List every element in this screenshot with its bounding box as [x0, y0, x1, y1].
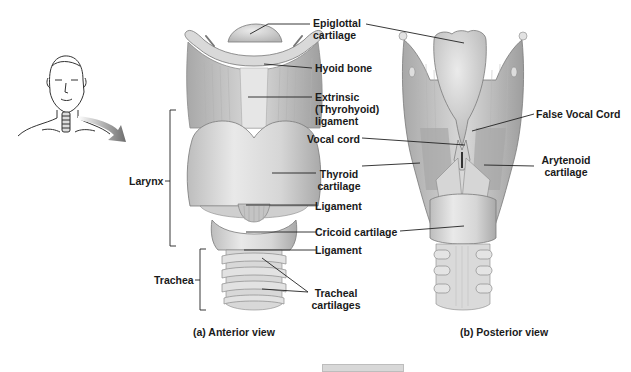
gray-bar [322, 364, 404, 372]
caption-anterior-view: (a) Anterior view [193, 326, 275, 338]
label-arytenoid-line1: Arytenoid [536, 154, 596, 166]
label-tracheal-line2: cartilages [306, 299, 366, 311]
label-ligament-upper: Ligament [315, 200, 362, 212]
label-arytenoid-cartilage: Arytenoid cartilage [536, 154, 596, 178]
label-epiglottal-line2: cartilage [313, 29, 361, 41]
posterior-larynx-icon [399, 30, 527, 310]
bracket-label-larynx: Larynx [129, 175, 163, 187]
label-epiglottal-line1: Epiglottal [313, 17, 361, 29]
label-thyroid-line1: Thyroid [315, 168, 363, 180]
label-arytenoid-line2: cartilage [536, 166, 596, 178]
label-hyoid-bone: Hyoid bone [315, 62, 372, 74]
label-extrinsic-line2: (Thyrohyoid) [315, 103, 379, 115]
label-cricoid-cartilage: Cricoid cartilage [315, 226, 397, 238]
label-thyroid-cartilage: Thyroid cartilage [315, 168, 363, 192]
caption-posterior-view: (b) Posterior view [460, 326, 548, 338]
label-extrinsic-line1: Extrinsic [315, 91, 379, 103]
label-false-vocal-cord: False Vocal Cord [536, 108, 620, 120]
label-tracheal-cartilages: Tracheal cartilages [306, 287, 366, 311]
label-thyroid-line2: cartilage [315, 180, 363, 192]
bracket-label-trachea: Trachea [154, 274, 194, 286]
label-tracheal-line1: Tracheal [306, 287, 366, 299]
label-vocal-cord: Vocal cord [307, 133, 360, 145]
label-extrinsic-ligament: Extrinsic (Thyrohyoid) ligament [315, 91, 379, 127]
label-epiglottal-cartilage: Epiglottal cartilage [313, 17, 361, 41]
label-ligament-lower: Ligament [315, 244, 362, 256]
label-extrinsic-line3: ligament [315, 115, 379, 127]
